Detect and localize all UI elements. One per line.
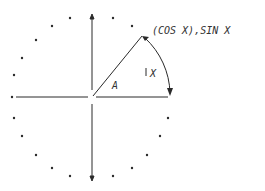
arc-arrow-down-icon xyxy=(167,88,173,96)
diagram-canvas: (COS X),SIN X X A xyxy=(0,0,265,191)
point-label: (COS X),SIN X xyxy=(152,25,231,36)
y-arrow-down-icon xyxy=(90,176,94,181)
arc-label: X xyxy=(149,68,157,79)
y-arrow-up-icon xyxy=(90,14,94,19)
arc-x xyxy=(145,38,170,93)
angle-label: A xyxy=(111,80,118,91)
unit-circle-diagram: (COS X),SIN X X A xyxy=(0,0,265,191)
